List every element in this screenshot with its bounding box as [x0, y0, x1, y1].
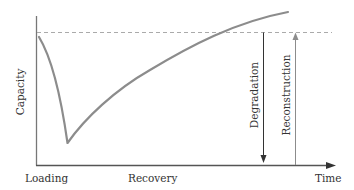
capacity-diagram: Capacity Degradation Reconstruction Load… — [0, 0, 354, 190]
x-axis-arrowhead-icon — [326, 162, 336, 169]
reconstruction-arrowhead-icon — [293, 33, 299, 41]
reconstruction-label: Reconstruction — [280, 54, 292, 135]
recovery-phase-label: Recovery — [128, 172, 177, 184]
degradation-arrowhead-icon — [261, 155, 267, 163]
x-axis-label: Time — [315, 172, 342, 184]
y-axis-label: Capacity — [14, 69, 26, 116]
degradation-label: Degradation — [248, 62, 260, 129]
loading-phase-label: Loading — [25, 172, 68, 184]
